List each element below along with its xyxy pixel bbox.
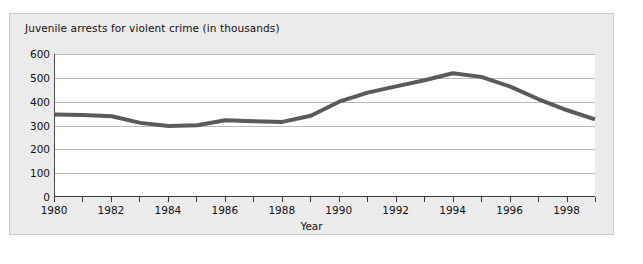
plot-area (54, 54, 595, 197)
series-line-chart (55, 54, 595, 197)
x-axis-tick (310, 197, 311, 202)
x-axis-tick (282, 197, 283, 202)
x-axis-tick (54, 197, 55, 202)
x-axis-tick-labels: 1980198219841986198819901992199419961998 (54, 204, 595, 220)
x-axis-title: Year (10, 220, 613, 232)
x-axis-tick-label: 1996 (496, 204, 523, 216)
y-axis-tick-label: 600 (16, 48, 50, 60)
x-axis-tick (339, 197, 340, 202)
x-axis-tick-label: 1990 (325, 204, 352, 216)
x-axis-ticks (54, 197, 595, 203)
x-axis-tick (168, 197, 169, 202)
y-axis-tick-label: 400 (16, 96, 50, 108)
x-axis-tick (538, 197, 539, 202)
x-axis-tick (595, 197, 596, 202)
series-line-path (55, 73, 595, 126)
chart-figure: Juvenile arrests for violent crime (in t… (9, 13, 614, 235)
y-axis-tick-labels: 0100200300400500600 (10, 54, 50, 197)
x-axis-tick (253, 197, 254, 202)
x-axis-tick (567, 197, 568, 202)
x-axis-tick (139, 197, 140, 202)
x-axis-tick-label: 1994 (439, 204, 466, 216)
x-axis-tick (396, 197, 397, 202)
x-axis-tick-label: 1986 (211, 204, 238, 216)
x-axis-tick-label: 1988 (268, 204, 295, 216)
x-axis-tick-label: 1984 (155, 204, 182, 216)
x-axis-tick (424, 197, 425, 202)
x-axis-tick (510, 197, 511, 202)
y-axis-tick-label: 200 (16, 143, 50, 155)
y-axis-tick-label: 100 (16, 167, 50, 179)
chart-title: Juvenile arrests for violent crime (in t… (25, 22, 280, 34)
x-axis-tick (82, 197, 83, 202)
x-axis-tick-label: 1980 (41, 204, 68, 216)
y-axis-tick-label: 0 (16, 191, 50, 203)
x-axis-tick-label: 1998 (553, 204, 580, 216)
x-axis-tick (453, 197, 454, 202)
x-axis-tick-label: 1992 (382, 204, 409, 216)
x-axis-tick (196, 197, 197, 202)
x-axis-tick (225, 197, 226, 202)
x-axis-tick (111, 197, 112, 202)
y-axis-tick-label: 300 (16, 120, 50, 132)
x-axis-tick-label: 1982 (98, 204, 125, 216)
x-axis-tick (367, 197, 368, 202)
x-axis-tick (481, 197, 482, 202)
y-axis-tick-label: 500 (16, 72, 50, 84)
